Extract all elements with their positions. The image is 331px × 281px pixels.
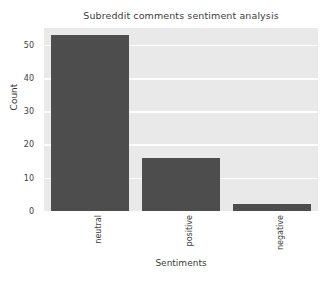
bar-chart-figure: Subreddit comments sentiment analysis Co… [0, 0, 331, 281]
y-tick-label: 20 [24, 140, 34, 149]
y-axis-tick-labels: 01020304050 [0, 28, 40, 211]
y-tick-label: 40 [24, 73, 34, 82]
x-tick-label: neutral [94, 215, 103, 244]
bar [51, 35, 129, 211]
y-tick-label: 50 [24, 40, 34, 49]
y-tick-label: 0 [29, 207, 34, 216]
y-tick-label: 30 [24, 107, 34, 116]
chart-title: Subreddit comments sentiment analysis [44, 10, 318, 21]
y-tick-label: 10 [24, 173, 34, 182]
x-axis-label: Sentiments [44, 258, 318, 268]
x-tick-label: negative [276, 215, 285, 250]
bar [233, 204, 311, 211]
x-axis-tick-labels: neutralpositivenegative [44, 211, 318, 257]
plot-area [44, 28, 318, 211]
x-tick-label: positive [185, 215, 194, 246]
bar [142, 158, 220, 211]
